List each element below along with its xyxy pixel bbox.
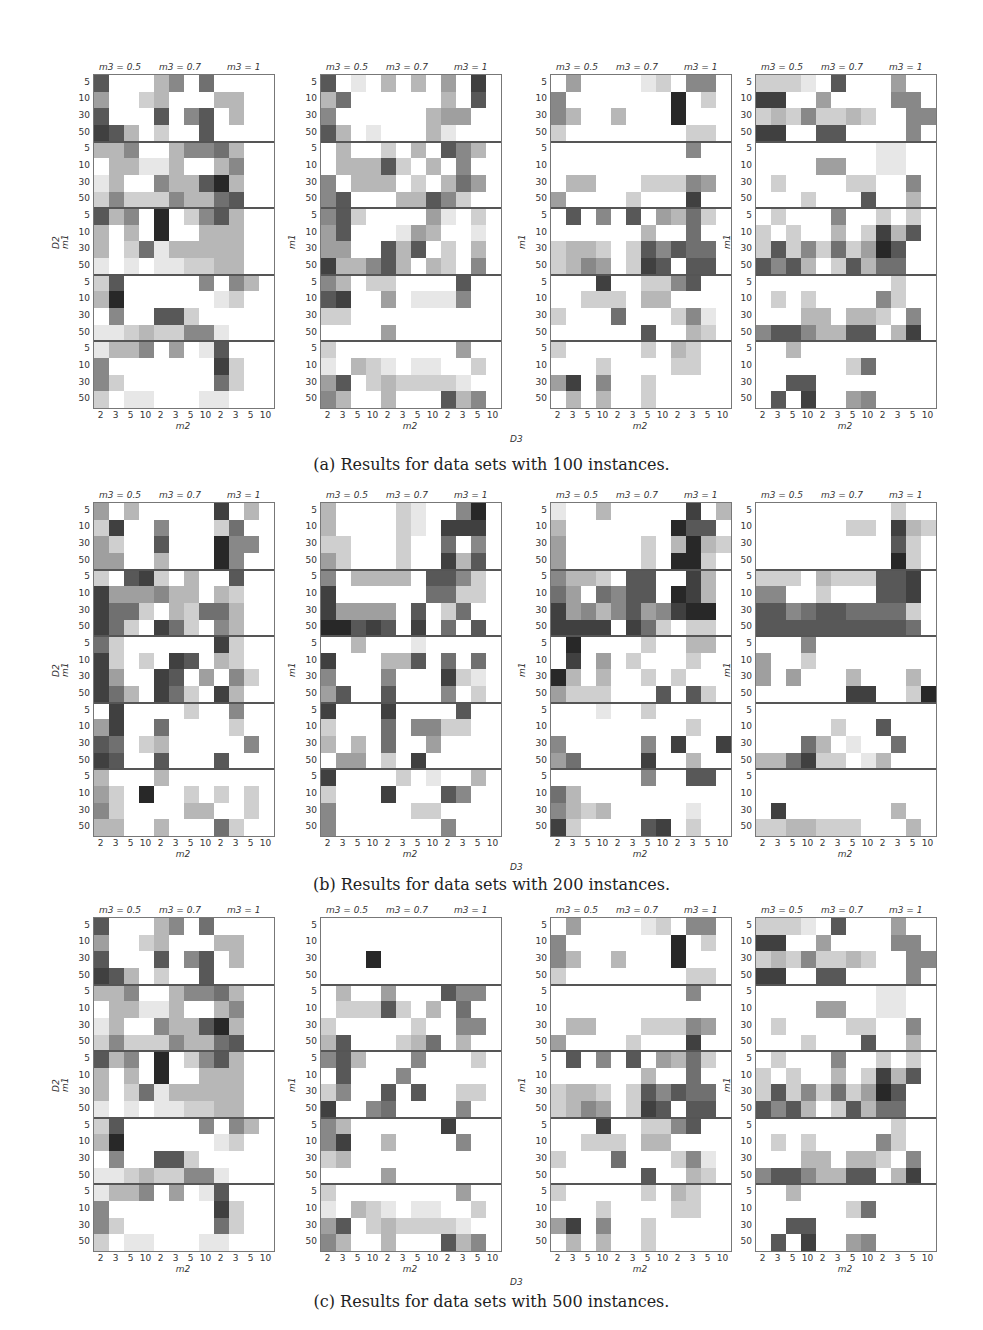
heatmap-cell [641, 1035, 656, 1052]
heatmap-cell [771, 1051, 786, 1068]
heatmap-cell [154, 603, 169, 620]
heatmap-cell [139, 603, 154, 620]
heatmap-cell [154, 325, 169, 342]
heatmap-cell [906, 769, 921, 786]
y-tick-label: 30 [306, 178, 317, 187]
heatmap-cell [716, 308, 731, 325]
heatmap-cell [641, 769, 656, 786]
heatmap-cell [199, 769, 214, 786]
heatmap-cell [336, 1151, 351, 1168]
y-tick-label: 10 [536, 1004, 547, 1013]
heatmap-cell [214, 503, 229, 520]
heatmap-cell [229, 1168, 244, 1185]
heatmap-cell [831, 1218, 846, 1235]
heatmap-cell [184, 769, 199, 786]
heatmap-cell [581, 1151, 596, 1168]
heatmap-cell [816, 918, 831, 935]
x-axis-title-m2: m2 [633, 849, 648, 859]
heatmap-cell [381, 653, 396, 670]
heatmap-cell [656, 703, 671, 720]
heatmap-cell [846, 341, 861, 358]
heatmap-cell [801, 636, 816, 653]
heatmap-cell [566, 108, 581, 125]
y-tick-label: 5 [84, 772, 90, 781]
heatmap-cell [786, 175, 801, 192]
heatmap-cell [214, 1201, 229, 1218]
heatmap-cell [411, 142, 426, 159]
heatmap-cell [846, 375, 861, 392]
heatmap-cell [716, 208, 731, 225]
heatmap-cell [771, 935, 786, 952]
heatmap-cell [846, 275, 861, 292]
heatmap-cell [861, 968, 876, 985]
heatmap-cell [551, 108, 566, 125]
heatmap-cell [109, 1001, 124, 1018]
x-tick-label: 2 [675, 410, 681, 420]
heatmap-cell [861, 1018, 876, 1035]
heatmap-cell [906, 968, 921, 985]
heatmap-cell [801, 225, 816, 242]
heatmap-cell [351, 258, 366, 275]
heatmap-cell [184, 275, 199, 292]
heatmap-cell [381, 786, 396, 803]
heatmap-cell [771, 1134, 786, 1151]
heatmap-cell [229, 1218, 244, 1235]
heatmap-cell [259, 1168, 274, 1185]
heatmap-cell [124, 1184, 139, 1201]
heatmap-cell [786, 325, 801, 342]
x-tick-label: 2 [445, 410, 451, 420]
heatmap-cell [596, 375, 611, 392]
heatmap-cell [441, 125, 456, 142]
heatmap-cell [566, 636, 581, 653]
y-tick-label: 10 [741, 589, 752, 598]
heatmap-cell [566, 536, 581, 553]
heatmap-cell [551, 985, 566, 1002]
heatmap-cell [771, 1084, 786, 1101]
heatmap-cell [154, 636, 169, 653]
heatmap-cell [169, 208, 184, 225]
heatmap-cell [124, 520, 139, 537]
heatmap-cell [154, 586, 169, 603]
heatmap-cell [596, 1218, 611, 1235]
y-tick-label: 5 [746, 706, 752, 715]
heatmap-cell [701, 308, 716, 325]
heatmap-cell [244, 391, 259, 408]
block-separator [756, 1117, 936, 1119]
y-tick-label: 30 [741, 1021, 752, 1030]
heatmap-cell [686, 503, 701, 520]
heatmap-cell [199, 325, 214, 342]
heatmap-cell [756, 1151, 771, 1168]
heatmap-cell [214, 92, 229, 109]
y-tick-label: 5 [84, 506, 90, 515]
heatmap-cell [671, 92, 686, 109]
heatmap-cell [109, 1201, 124, 1218]
heatmap-cell [701, 1035, 716, 1052]
heatmap-cell [396, 686, 411, 703]
heatmap-cell [786, 686, 801, 703]
heatmap-cell [351, 142, 366, 159]
heatmap-cell [671, 258, 686, 275]
heatmap-cell [471, 1101, 486, 1118]
heatmap-cell [366, 669, 381, 686]
heatmap-cell [611, 1184, 626, 1201]
heatmap-cell [426, 208, 441, 225]
heatmap-cell [816, 719, 831, 736]
heatmap-cell [94, 275, 109, 292]
heatmap-cell [381, 125, 396, 142]
heatmap-cell [596, 951, 611, 968]
x-tick-label: 2 [98, 838, 104, 848]
heatmap-cell [199, 570, 214, 587]
heatmap-cell [124, 985, 139, 1002]
heatmap-cell [611, 275, 626, 292]
heatmap-cell [229, 1134, 244, 1151]
y-tick-label: 10 [306, 1004, 317, 1013]
heatmap-cell [486, 241, 501, 258]
heatmap-cell [816, 786, 831, 803]
heatmap-cell [861, 570, 876, 587]
heatmap-cell [876, 1118, 891, 1135]
heatmap-cell [139, 736, 154, 753]
heatmap-cell [846, 603, 861, 620]
y-tick-label: 10 [79, 1204, 90, 1213]
heatmap-cell [169, 753, 184, 770]
y-tick-label: 50 [536, 1171, 547, 1180]
